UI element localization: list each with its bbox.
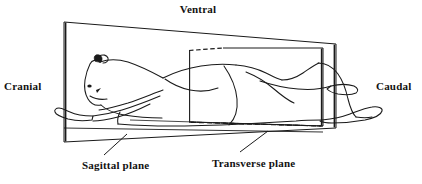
leader-lines <box>104 131 268 155</box>
sagittal-plane-outline <box>64 22 336 142</box>
figure-container: Ventral Cranial Caudal Sagittal plane Tr… <box>0 0 422 184</box>
transverse-plane <box>189 48 323 126</box>
trunk-cross-section-arc <box>224 66 237 125</box>
label-caudal: Caudal <box>376 80 411 92</box>
head-to-neck-topline <box>100 60 163 78</box>
nose <box>96 88 101 93</box>
anatomical-planes-diagram <box>0 0 422 184</box>
rump-topline <box>282 63 319 80</box>
tail-upper-edge <box>318 63 356 117</box>
sagittal-leader-line <box>104 134 127 155</box>
label-cranial: Cranial <box>4 80 41 92</box>
transverse-plane-hidden-top-edge <box>189 48 223 51</box>
head-profile <box>85 60 101 105</box>
eye <box>87 85 91 88</box>
jawline <box>90 96 107 99</box>
ventral-belly-line <box>118 124 243 126</box>
hindlimb-shank <box>260 81 331 89</box>
ventral-line-caudal <box>243 120 322 124</box>
animal-figure <box>55 55 382 126</box>
transverse-plane-visible-outline <box>189 48 323 126</box>
label-sagittal-plane: Sagittal plane <box>82 159 149 171</box>
transverse-leader-line <box>240 131 268 152</box>
second-foreleg <box>93 104 150 121</box>
back-topline-cranial <box>163 64 236 78</box>
label-ventral: Ventral <box>180 3 216 15</box>
label-transverse-plane: Transverse plane <box>212 157 295 169</box>
sagittal-plane <box>64 22 336 142</box>
shoulder-contour <box>165 79 218 91</box>
tail-tip <box>356 117 372 118</box>
hind-paw-upper <box>327 85 358 95</box>
ear <box>94 55 102 62</box>
floor-line-front <box>64 128 323 132</box>
front-paw <box>55 108 93 121</box>
